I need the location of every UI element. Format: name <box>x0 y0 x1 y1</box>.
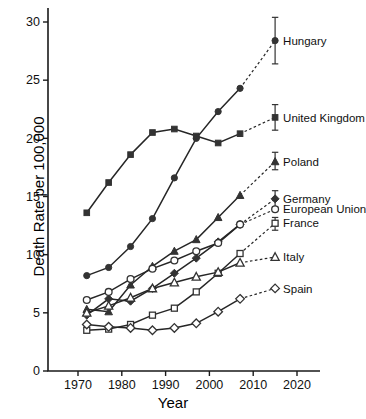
data-point <box>149 312 155 318</box>
data-point <box>170 324 179 333</box>
legend-label-italy: Italy <box>283 251 304 263</box>
data-point <box>237 221 244 228</box>
data-point <box>149 265 156 272</box>
x-tick-label-2000: 2000 <box>195 378 223 392</box>
series-projection-line <box>240 223 275 253</box>
data-point <box>215 108 221 114</box>
data-point <box>148 326 157 335</box>
projected-data-point <box>272 206 279 213</box>
legend-label-france: France <box>283 217 319 229</box>
data-point <box>127 276 134 283</box>
projected-data-point <box>271 284 280 293</box>
data-point <box>106 264 112 270</box>
data-point <box>105 288 112 295</box>
data-point <box>106 180 112 186</box>
data-point <box>84 273 90 279</box>
y-tick-label-0: 0 <box>33 364 40 378</box>
series-european-union: European Union <box>83 203 366 303</box>
legend-label-spain: Spain <box>283 283 312 295</box>
data-point <box>214 307 223 316</box>
data-point <box>193 133 199 139</box>
legend-label-poland: Poland <box>283 156 319 168</box>
data-point <box>237 251 243 257</box>
series-projection-line <box>240 41 275 89</box>
x-tick-label-2010: 2010 <box>239 378 267 392</box>
data-point <box>84 210 90 216</box>
data-point <box>236 295 245 304</box>
data-point <box>215 140 221 146</box>
x-tick-label-1980: 1980 <box>108 378 136 392</box>
chart-figure: 051015202530197019801990200020102020Hung… <box>0 0 366 419</box>
x-tick-label-1970: 1970 <box>64 378 92 392</box>
data-point <box>172 126 178 132</box>
projected-data-point <box>272 115 278 121</box>
data-point <box>128 152 134 158</box>
series-projection-line <box>240 117 275 133</box>
legend-label-european-union: European Union <box>283 203 366 215</box>
data-point <box>149 216 155 222</box>
projected-data-point <box>271 158 279 165</box>
projected-data-point <box>272 220 278 226</box>
projected-data-point <box>271 253 279 261</box>
data-point <box>215 240 222 247</box>
y-tick-label-30: 30 <box>26 15 40 29</box>
data-point <box>127 243 133 249</box>
legend-label-hungary: Hungary <box>283 35 327 47</box>
data-point <box>150 130 156 136</box>
series-projection-line <box>240 162 275 196</box>
series-projection-line <box>240 288 275 298</box>
data-point <box>193 289 199 295</box>
y-axis-title-text: Death Rate per 100,000 <box>30 116 47 276</box>
projected-data-point <box>272 38 278 44</box>
series-projection-line <box>240 257 275 263</box>
projected-data-point <box>271 195 279 203</box>
death-rate-line-chart: 051015202530197019801990200020102020Hung… <box>0 0 366 419</box>
y-axis-title: Death Rate per 100,000 <box>30 77 47 317</box>
data-point <box>171 305 177 311</box>
data-point <box>171 247 179 254</box>
x-tick-label-2020: 2020 <box>283 378 311 392</box>
series-hungary: Hungary <box>84 17 327 278</box>
data-point <box>192 319 201 328</box>
x-tick-label-1990: 1990 <box>152 378 180 392</box>
data-point <box>236 191 244 198</box>
data-point <box>171 257 178 264</box>
data-point <box>237 85 243 91</box>
data-point <box>83 297 90 304</box>
legend-label-united-kingdom: United Kingdom <box>283 112 365 124</box>
data-point <box>236 259 244 267</box>
x-axis-title: Year <box>48 394 298 411</box>
data-point <box>237 131 243 137</box>
data-point <box>193 248 200 255</box>
data-point <box>171 175 177 181</box>
x-axis-title-text: Year <box>158 394 188 411</box>
